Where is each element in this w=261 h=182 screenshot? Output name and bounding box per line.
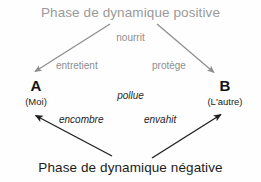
diagram-canvas: Phase de dynamique positive nourrit entr… — [0, 0, 261, 182]
edge-label-nourrit: nourrit — [0, 33, 261, 44]
title-phase-positive: Phase de dynamique positive — [0, 6, 261, 20]
edge-label-pollue: pollue — [0, 91, 261, 102]
edge-label-envahit: envahit — [144, 115, 176, 126]
edge-label-encombre: encombre — [59, 115, 103, 126]
title-phase-negative: Phase de dynamique négative — [0, 161, 261, 175]
edge-label-protege: protège — [152, 61, 186, 72]
edge-label-entretient: entretient — [56, 61, 98, 72]
